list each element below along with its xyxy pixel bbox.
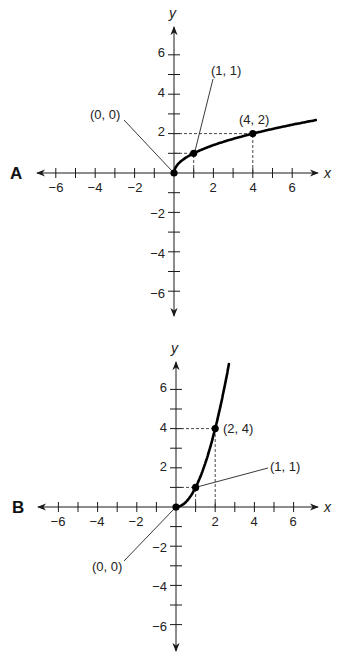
y-tick-label: 6: [158, 45, 165, 60]
x-tick-label: −6: [51, 514, 66, 529]
x-tick-label: 6: [289, 514, 296, 529]
x-tick-label: 2: [211, 514, 218, 529]
y-axis-label: y: [168, 5, 177, 21]
point-label-origin: (0, 0): [90, 107, 120, 122]
y-tick-label: 2: [160, 459, 167, 474]
point-origin: [170, 169, 177, 176]
leader-line-1-1: [195, 79, 213, 151]
point-4-2: [249, 130, 256, 137]
y-tick-label: −6: [150, 286, 165, 301]
point-label-origin: (0, 0): [92, 559, 122, 574]
graph-label: A: [10, 164, 22, 183]
point-label-4-2: (4, 2): [239, 112, 269, 127]
point-label-2-4: (2, 4): [223, 421, 253, 436]
point-2-4: [212, 425, 219, 432]
diagram-stage: A x y −6 −4 −2 2 4 6 6 4 2 −2 −4 −6: [0, 0, 344, 664]
x-tick-label: −6: [49, 180, 64, 195]
graph-label: B: [12, 498, 24, 517]
x-tick-label: 6: [288, 180, 295, 195]
point-label-1-1: (1, 1): [270, 459, 300, 474]
x-tick-label: 4: [249, 180, 256, 195]
sqrt-curve: [174, 120, 316, 173]
x-axis-label: x: [323, 165, 332, 181]
y-tick-label: −4: [150, 246, 165, 261]
x-tick-label: −4: [88, 180, 103, 195]
y-tick-label: 6: [160, 380, 167, 395]
y-tick-label: 4: [158, 85, 165, 100]
y-tick-label: −4: [152, 579, 167, 594]
x-tick-label: 4: [250, 514, 257, 529]
point-1-1: [190, 150, 197, 157]
y-tick-label: 4: [160, 420, 167, 435]
dashed-guides: [174, 134, 253, 173]
y-tick-label: −6: [152, 619, 167, 634]
y-tick-label: −2: [150, 206, 165, 221]
x-tick-label: 2: [209, 180, 216, 195]
x-tick-label: −2: [128, 180, 143, 195]
x-tick-label: −2: [129, 514, 144, 529]
diagram-canvas: A x y −6 −4 −2 2 4 6 6 4 2 −2 −4 −6: [0, 0, 344, 664]
y-tick-label: 2: [158, 124, 165, 139]
point-origin: [172, 503, 179, 510]
x-axis-label: x: [323, 499, 332, 515]
y-axis-label: y: [170, 340, 179, 356]
x-tick-label: −4: [90, 514, 105, 529]
graph-a: A x y −6 −4 −2 2 4 6 6 4 2 −2 −4 −6: [10, 5, 332, 316]
point-1-1: [192, 484, 199, 491]
leader-line-1-1: [197, 468, 268, 487]
point-label-1-1: (1, 1): [211, 63, 241, 78]
graph-b: B x y −6 −4 −2 2 4 6 6 4 2 −2 −4 −6: [12, 340, 332, 651]
y-tick-label: −2: [152, 540, 167, 555]
